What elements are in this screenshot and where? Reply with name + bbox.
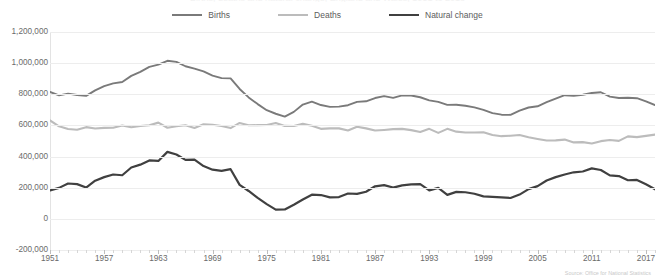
x-axis-tick bbox=[547, 250, 548, 253]
x-axis-tick bbox=[393, 250, 394, 253]
x-axis-tick-label: 1957 bbox=[95, 254, 113, 264]
x-axis-tick bbox=[131, 250, 132, 253]
series-line-deaths bbox=[50, 120, 655, 143]
x-axis-tick-label: 2011 bbox=[583, 254, 601, 264]
legend-swatch-births bbox=[172, 14, 202, 16]
x-axis: 1951195719631969197519811987199319992005… bbox=[0, 254, 655, 266]
x-axis-tick bbox=[601, 250, 602, 253]
x-axis-tick bbox=[312, 250, 313, 253]
x-axis-tick bbox=[339, 250, 340, 253]
legend-item-natural-change[interactable]: Natural change bbox=[389, 10, 483, 20]
y-axis-tick-label: 1,200,000 bbox=[2, 28, 48, 36]
gridline bbox=[50, 32, 655, 33]
x-axis-tick-label: 1987 bbox=[366, 254, 384, 264]
x-axis-tick bbox=[231, 250, 232, 253]
legend-item-births[interactable]: Births bbox=[172, 10, 230, 20]
x-axis-tick bbox=[122, 250, 123, 253]
x-axis-tick bbox=[529, 250, 530, 253]
y-axis-tick-label: 600,000 bbox=[2, 121, 48, 129]
gridline bbox=[50, 219, 655, 220]
x-axis-tick bbox=[77, 250, 78, 253]
x-axis-tick bbox=[303, 250, 304, 253]
x-axis-tick bbox=[357, 250, 358, 253]
x-axis-tick bbox=[511, 250, 512, 253]
x-axis-tick bbox=[167, 250, 168, 253]
x-axis-tick-label: 1951 bbox=[41, 254, 59, 264]
x-axis-tick bbox=[185, 250, 186, 253]
x-axis-tick-label: 2005 bbox=[529, 254, 547, 264]
x-axis-tick bbox=[438, 250, 439, 253]
gridline bbox=[50, 63, 655, 64]
page-title: Births, deaths and natural change, Engla… bbox=[0, 0, 655, 2]
x-axis-tick bbox=[194, 250, 195, 253]
x-axis-tick bbox=[465, 250, 466, 253]
y-axis-tick-label: -200,000 bbox=[2, 246, 48, 254]
chart-lines bbox=[50, 32, 655, 250]
x-axis-tick bbox=[610, 250, 611, 253]
x-axis-tick-label: 1963 bbox=[149, 254, 167, 264]
x-axis-tick bbox=[140, 250, 141, 253]
x-axis-tick bbox=[59, 250, 60, 253]
x-axis-tick bbox=[68, 250, 69, 253]
x-axis-tick bbox=[176, 250, 177, 253]
x-axis-tick bbox=[86, 250, 87, 253]
x-axis-tick bbox=[348, 250, 349, 253]
y-axis-tick-label: 200,000 bbox=[2, 184, 48, 192]
gridline bbox=[50, 157, 655, 158]
x-axis-tick bbox=[366, 250, 367, 253]
legend-item-deaths[interactable]: Deaths bbox=[278, 10, 341, 20]
x-axis-tick bbox=[556, 250, 557, 253]
gridline bbox=[50, 125, 655, 126]
x-axis-tick bbox=[240, 250, 241, 253]
legend-label-deaths: Deaths bbox=[314, 10, 341, 20]
x-axis-tick bbox=[294, 250, 295, 253]
series-line-births bbox=[50, 61, 655, 117]
x-axis-tick bbox=[628, 250, 629, 253]
gridline bbox=[50, 188, 655, 189]
y-axis: 1,200,0001,000,000800,000600,000400,0002… bbox=[0, 32, 48, 250]
plot-area bbox=[50, 32, 655, 250]
x-axis-tick bbox=[95, 250, 96, 253]
x-axis-tick bbox=[574, 250, 575, 253]
x-axis-tick-label: 2017 bbox=[637, 254, 655, 264]
x-axis-tick bbox=[474, 250, 475, 253]
legend-swatch-natural-change bbox=[389, 14, 419, 16]
legend-swatch-deaths bbox=[278, 14, 308, 16]
series-line-natural-change bbox=[50, 152, 655, 210]
x-axis-tick bbox=[113, 250, 114, 253]
x-axis-tick-label: 1999 bbox=[474, 254, 492, 264]
x-axis-tick bbox=[149, 250, 150, 253]
x-axis-tick bbox=[204, 250, 205, 253]
x-axis-tick bbox=[637, 250, 638, 253]
y-axis-tick-label: 800,000 bbox=[2, 90, 48, 98]
x-axis-tick bbox=[492, 250, 493, 253]
x-axis-tick bbox=[420, 250, 421, 253]
x-axis-tick-label: 1969 bbox=[203, 254, 221, 264]
x-axis-tick bbox=[258, 250, 259, 253]
x-axis-tick bbox=[402, 250, 403, 253]
y-axis-tick-label: 400,000 bbox=[2, 153, 48, 161]
x-axis-tick bbox=[249, 250, 250, 253]
x-axis-tick bbox=[619, 250, 620, 253]
y-axis-tick-label: 0 bbox=[2, 215, 48, 223]
source-note: Source: Office for National Statistics bbox=[565, 270, 651, 276]
x-axis-tick bbox=[456, 250, 457, 253]
gridline bbox=[50, 94, 655, 95]
x-axis-tick bbox=[222, 250, 223, 253]
x-axis-tick bbox=[330, 250, 331, 253]
chart-legend: Births Deaths Natural change bbox=[0, 7, 655, 23]
y-axis-tick-label: 1,000,000 bbox=[2, 59, 48, 67]
legend-label-natural-change: Natural change bbox=[425, 10, 483, 20]
x-axis-tick-label: 1981 bbox=[312, 254, 330, 264]
x-axis-tick bbox=[285, 250, 286, 253]
x-axis-tick bbox=[411, 250, 412, 253]
x-axis-tick bbox=[520, 250, 521, 253]
x-axis-tick-label: 1993 bbox=[420, 254, 438, 264]
legend-label-births: Births bbox=[208, 10, 230, 20]
x-axis-tick bbox=[384, 250, 385, 253]
x-axis-tick bbox=[501, 250, 502, 253]
x-axis-tick bbox=[276, 250, 277, 253]
x-axis-tick-label: 1975 bbox=[258, 254, 276, 264]
x-axis-tick bbox=[447, 250, 448, 253]
